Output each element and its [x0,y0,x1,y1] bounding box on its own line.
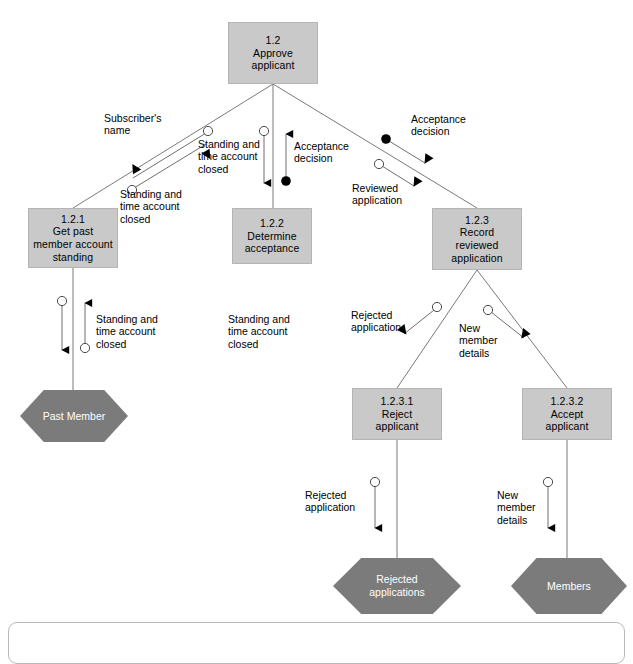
arrowhead-down-right [420,153,433,166]
control-couple-circle [281,176,291,186]
data-couple-circle [374,159,383,168]
module-name: Approve applicant [252,47,295,72]
data-couple-circle [57,296,66,305]
data-couple-circle [543,477,552,486]
module-name: Accept applicant [546,408,589,433]
module-box-1.2.1[interactable]: 1.2.1 Get past member account standing [28,208,118,268]
datastore-members[interactable]: Members [511,558,627,614]
couple-acceptance-decision-right [381,134,433,166]
module-id: 1.2 [266,34,281,47]
edge-label-subscribers-name: Subscriber's name [104,112,161,137]
edge-label-acceptance-decision-right: Acceptance decision [411,113,466,138]
datastore-label: Members [543,580,595,593]
module-id: 1.2.3.1 [381,395,414,408]
module-name: Reject applicant [376,408,419,433]
edge-label-standing-closed-upper: Standing and time account closed [198,138,260,175]
arrowhead-down-right [409,176,422,189]
datastore-label: Past Member [39,410,109,423]
datastore-rejected-applications[interactable]: Rejected applications [333,558,461,614]
edge-label-new-member-details-lower: New member details [497,489,536,526]
data-couple-circle [432,302,441,311]
data-couple-circle [370,477,379,486]
module-name: Determine acceptance [245,230,300,255]
couple-standing-closed-center [259,126,268,183]
edge-label-rejected-application-upper: Rejected application [351,309,401,334]
edge-label-standing-closed-store: Standing and time account closed [96,313,158,350]
edge-label-rejected-application-lower: Rejected application [305,489,355,514]
couple-new-member-details-lower [543,477,552,528]
caption-frame [8,622,625,664]
module-id: 1.2.2 [260,217,284,230]
couple-store-write [57,296,66,350]
module-id: 1.2.3 [465,214,489,227]
couple-store-read [80,303,89,353]
edge-label-standing-closed-left: Standing and time account closed [120,188,182,225]
data-couple-circle [483,305,492,314]
datastore-label: Rejected applications [365,573,428,598]
module-box-1.2.3.2[interactable]: 1.2.3.2 Accept applicant [522,388,612,440]
module-name: Record reviewed application [451,226,502,264]
module-box-1.2.2[interactable]: 1.2.2 Determine acceptance [232,208,312,264]
couple-rejected-application-lower [370,477,379,528]
module-box-1.2[interactable]: 1.2 Approve applicant [228,22,318,84]
module-name: Get past member account standing [33,225,113,263]
module-box-1.2.3[interactable]: 1.2.3 Record reviewed application [432,208,522,270]
edge-label-reviewed-application: Reviewed application [352,182,402,207]
edge-label-new-member-details-upper: New member details [459,322,498,359]
data-couple-circle [80,343,89,352]
module-box-1.2.3.1[interactable]: 1.2.3.1 Reject applicant [352,388,442,440]
module-id: 1.2.3.2 [551,395,584,408]
edge-label-standing-closed-mid: Standing and time account closed [228,313,290,350]
module-id: 1.2.1 [61,213,85,226]
couple-acceptance-decision-center [281,134,291,186]
edge-label-acceptance-decision-center: Acceptance decision [294,140,349,165]
data-couple-circle [203,126,212,135]
control-couple-circle [381,134,391,144]
datastore-past-member[interactable]: Past Member [20,390,128,442]
data-couple-circle [259,126,268,135]
